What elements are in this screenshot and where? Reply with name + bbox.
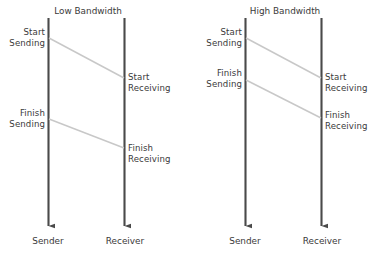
- bandwidth-comparison-diagram: [0, 0, 380, 257]
- axis-label-high-sender: Sender: [215, 236, 275, 247]
- label-high-finish-sending: Finish Sending: [197, 68, 242, 90]
- label-low-finish-receiving: Finish Receiving: [128, 143, 188, 165]
- message-high-first-bit: [246, 38, 321, 78]
- label-low-finish-sending: Finish Sending: [0, 108, 45, 130]
- axis-label-low-sender: Sender: [18, 236, 78, 247]
- message-low-first-bit: [49, 38, 124, 78]
- label-high-start-receiving: Start Receiving: [325, 72, 380, 94]
- message-low-last-bit: [49, 119, 124, 148]
- axis-label-low-receiver: Receiver: [92, 236, 158, 247]
- label-low-start-sending: Start Sending: [0, 27, 45, 49]
- label-low-start-receiving: Start Receiving: [128, 72, 188, 94]
- title-low-bandwidth: Low Bandwidth: [18, 6, 158, 17]
- diagram-canvas-root: Low Bandwidth High Bandwidth Start Sendi…: [0, 0, 380, 257]
- title-high-bandwidth: High Bandwidth: [215, 6, 355, 17]
- axis-label-high-receiver: Receiver: [289, 236, 355, 247]
- label-high-finish-receiving: Finish Receiving: [325, 110, 380, 132]
- message-high-last-bit: [246, 80, 321, 118]
- label-high-start-sending: Start Sending: [197, 27, 242, 49]
